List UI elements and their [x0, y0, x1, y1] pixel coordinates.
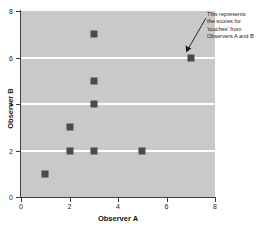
y-axis-line: [20, 10, 21, 198]
y-tick-label: 2: [0, 147, 13, 154]
x-tick-label: 4: [108, 203, 128, 210]
y-tick-label: 6: [0, 54, 13, 61]
annotation-line: the scores for: [207, 18, 262, 25]
annotation-line: This represents: [207, 11, 262, 18]
annotation-callout: This representsthe scores for'touches' f…: [207, 11, 262, 41]
y-tick-mark: [16, 104, 20, 105]
x-tick-label: 6: [157, 203, 177, 210]
x-tick-label: 8: [205, 203, 225, 210]
x-tick-label: 0: [11, 203, 31, 210]
data-point: [90, 147, 97, 154]
data-point: [187, 54, 194, 61]
data-point: [66, 147, 73, 154]
data-point: [42, 170, 49, 177]
gridline: [21, 150, 215, 152]
y-tick-mark: [16, 197, 20, 198]
x-tick-mark: [167, 198, 168, 202]
y-tick-mark: [16, 11, 20, 12]
data-point: [90, 77, 97, 84]
y-tick-label: 0: [0, 194, 13, 201]
data-point: [139, 147, 146, 154]
data-point: [66, 124, 73, 131]
y-axis-title: Observer B: [6, 79, 15, 139]
plot-area: [21, 11, 215, 197]
gridline: [21, 103, 215, 105]
gridline: [21, 57, 215, 59]
data-point: [90, 31, 97, 38]
annotation-line: Observers A and B: [207, 33, 262, 40]
y-tick-mark: [16, 151, 20, 152]
x-axis-title: Observer A: [21, 214, 215, 223]
x-tick-label: 2: [60, 203, 80, 210]
x-tick-mark: [118, 198, 119, 202]
x-tick-mark: [215, 198, 216, 202]
data-point: [90, 101, 97, 108]
annotation-line: 'touches' from: [207, 26, 262, 33]
y-tick-label: 8: [0, 8, 13, 15]
x-tick-mark: [70, 198, 71, 202]
scatter-plot-figure: 02468 02468 Observer B Observer A This r…: [0, 0, 262, 233]
x-tick-mark: [21, 198, 22, 202]
y-tick-mark: [16, 58, 20, 59]
